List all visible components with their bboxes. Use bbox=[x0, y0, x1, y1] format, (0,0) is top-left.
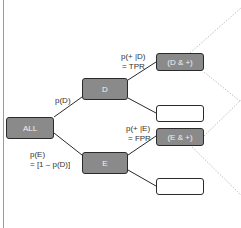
tree-edges bbox=[0, 0, 241, 228]
label-tpr: p(+ |D) = TPR bbox=[121, 52, 146, 72]
label-fpr: p(+ |E) = FPR bbox=[126, 124, 151, 144]
label-tpr-line2: = TPR bbox=[121, 62, 146, 72]
label-fpr-line2: = FPR bbox=[126, 134, 151, 144]
node-d-positive: (D & +) bbox=[156, 53, 204, 71]
label-p-d: p(D) bbox=[55, 96, 71, 106]
node-e-positive: (E & +) bbox=[156, 128, 204, 146]
label-p-e: p(E) = [1 – p(D)] bbox=[30, 150, 70, 170]
node-d: D bbox=[82, 78, 128, 100]
label-tpr-line1: p(+ |D) bbox=[121, 52, 146, 62]
label-p-e-line2: = [1 – p(D)] bbox=[30, 160, 70, 170]
node-e: E bbox=[82, 152, 128, 174]
node-all: ALL bbox=[6, 117, 54, 139]
node-d-negative bbox=[156, 105, 204, 122]
node-e-negative bbox=[156, 178, 204, 195]
label-fpr-line1: p(+ |E) bbox=[126, 124, 151, 134]
label-p-e-line1: p(E) bbox=[30, 150, 70, 160]
